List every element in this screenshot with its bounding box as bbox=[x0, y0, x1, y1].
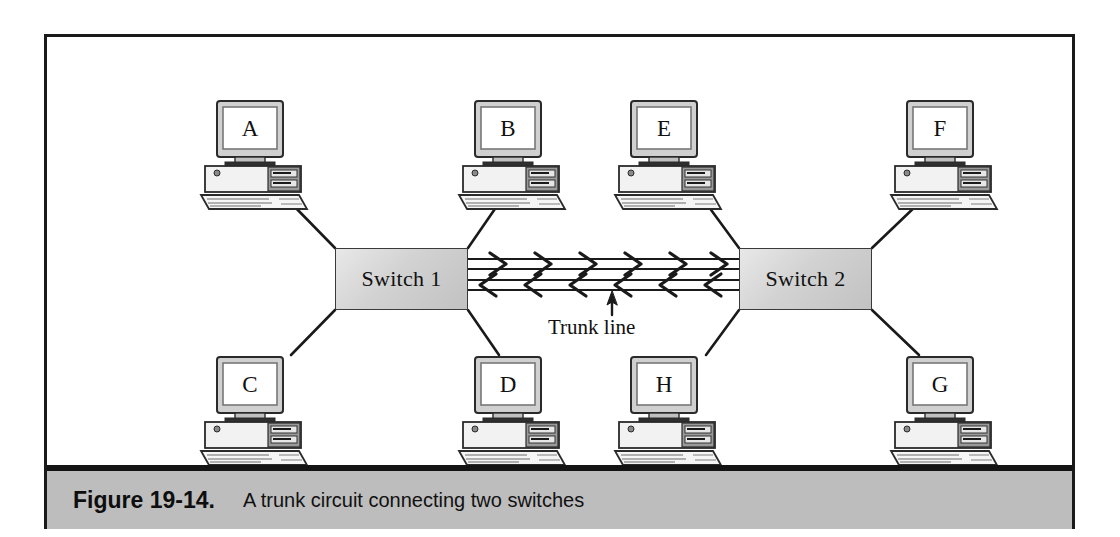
workstation-h-letter: H bbox=[656, 372, 673, 397]
trunk-line-label: Trunk line bbox=[548, 315, 635, 340]
network-diagram: Switch 1 Switch 2 Trunk line A bbox=[47, 37, 1072, 465]
keyboard-icon bbox=[459, 195, 565, 209]
workstation-a-letter: A bbox=[242, 116, 259, 141]
computer-case-icon bbox=[895, 422, 991, 448]
trunk-line-upper bbox=[468, 259, 739, 269]
workstation-e[interactable]: E bbox=[609, 99, 727, 214]
workstation-g[interactable]: G bbox=[885, 355, 1003, 470]
workstation-a[interactable]: A bbox=[195, 99, 313, 214]
figure-frame: Switch 1 Switch 2 Trunk line A bbox=[44, 34, 1075, 529]
workstation-b[interactable]: B bbox=[453, 99, 571, 214]
workstation-b-letter: B bbox=[500, 116, 515, 141]
computer-case-icon bbox=[463, 166, 559, 192]
link-h-switch2 bbox=[706, 310, 739, 355]
keyboard-icon bbox=[201, 451, 307, 465]
workstation-f[interactable]: F bbox=[885, 99, 1003, 214]
link-c-switch1 bbox=[291, 310, 335, 355]
figure-caption-band: Figure 19-14. A trunk circuit connecting… bbox=[47, 465, 1072, 529]
workstation-c-letter: C bbox=[242, 372, 257, 397]
computer-case-icon bbox=[463, 422, 559, 448]
workstation-g-letter: G bbox=[932, 372, 949, 397]
link-g-switch2 bbox=[872, 310, 919, 355]
workstation-f-letter: F bbox=[934, 116, 947, 141]
switch-1-node[interactable]: Switch 1 bbox=[335, 248, 468, 310]
trunk-arrows-left bbox=[480, 274, 721, 296]
switch-2-node[interactable]: Switch 2 bbox=[739, 248, 872, 310]
link-d-switch1 bbox=[468, 310, 499, 355]
workstation-d-letter: D bbox=[500, 372, 517, 397]
figure-caption-text: A trunk circuit connecting two switches bbox=[243, 489, 584, 512]
computer-case-icon bbox=[895, 166, 991, 192]
computer-case-icon bbox=[205, 422, 301, 448]
keyboard-icon bbox=[891, 451, 997, 465]
computer-case-icon bbox=[619, 166, 715, 192]
workstation-e-letter: E bbox=[657, 116, 671, 141]
switch-2-label: Switch 2 bbox=[765, 266, 845, 292]
switch-1-label: Switch 1 bbox=[361, 266, 441, 292]
keyboard-icon bbox=[615, 451, 721, 465]
keyboard-icon bbox=[459, 451, 565, 465]
trunk-arrows-right bbox=[490, 253, 727, 275]
figure-number: Figure 19-14. bbox=[73, 487, 215, 514]
computer-case-icon bbox=[205, 166, 301, 192]
keyboard-icon bbox=[615, 195, 721, 209]
trunk-line-lower bbox=[468, 280, 739, 290]
keyboard-icon bbox=[891, 195, 997, 209]
workstation-c[interactable]: C bbox=[195, 355, 313, 470]
computer-case-icon bbox=[619, 422, 715, 448]
workstation-h[interactable]: H bbox=[609, 355, 727, 470]
keyboard-icon bbox=[201, 195, 307, 209]
workstation-d[interactable]: D bbox=[453, 355, 571, 470]
trunk-pointer-arrow bbox=[607, 291, 617, 315]
